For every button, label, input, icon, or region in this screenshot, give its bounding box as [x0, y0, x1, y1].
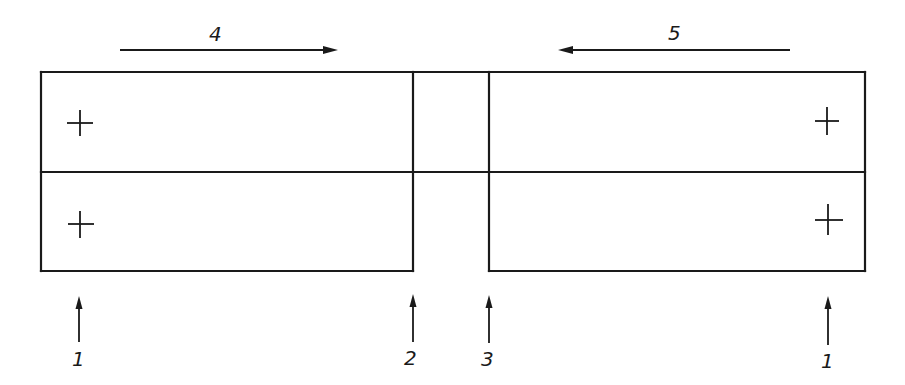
- plus-icon: [67, 110, 93, 136]
- diagram-canvas: 4 5 1 2 3 1: [0, 0, 905, 385]
- arrowhead-right-icon: [323, 46, 338, 54]
- block-frame: [41, 72, 865, 271]
- label-1-right: 1: [821, 349, 834, 373]
- position-arrow-1-left: 1: [72, 296, 85, 371]
- label-4: 4: [209, 22, 222, 46]
- arrowhead-up-icon: [486, 295, 493, 308]
- label-3: 3: [481, 347, 494, 371]
- label-1-left: 1: [72, 347, 85, 371]
- plus-icon: [68, 211, 94, 238]
- position-arrow-1-right: 1: [821, 296, 834, 373]
- arrowhead-up-icon: [76, 296, 83, 309]
- arrowhead-up-icon: [410, 294, 417, 307]
- position-arrow-2: 2: [404, 294, 417, 370]
- plus-icon: [815, 107, 839, 135]
- arrowhead-up-icon: [825, 296, 832, 309]
- plus-icon: [815, 204, 843, 235]
- position-arrow-3: 3: [481, 295, 494, 371]
- label-5: 5: [668, 21, 681, 45]
- arrow-5-left: 5: [558, 21, 790, 54]
- label-2: 2: [404, 346, 417, 370]
- arrow-4-right: 4: [120, 22, 338, 54]
- arrowhead-left-icon: [558, 46, 573, 54]
